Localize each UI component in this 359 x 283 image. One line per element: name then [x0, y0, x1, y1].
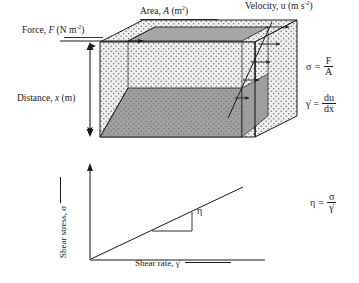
- distance-label: Distance, x (m): [17, 94, 75, 104]
- equation-shear-rate: γ̇ = du dx: [306, 93, 336, 114]
- plot-ylabel: Shear stress, σ: [58, 206, 68, 258]
- shear-box-diagram: [0, 0, 359, 283]
- equation-shear-stress: σ = F A: [306, 56, 334, 77]
- equation-viscosity: η = σ γ̇: [310, 192, 336, 213]
- force-label: Force, F (N m-2): [22, 26, 84, 36]
- plot-ylabel-arrow: [60, 177, 61, 203]
- distance-arrow: [87, 42, 94, 137]
- velocity-label: Velocity, u (m s-2): [245, 2, 313, 12]
- plot-xlabel: Shear rate, γ̇: [135, 258, 231, 268]
- figure-canvas: Area, A (m2) Velocity, u (m s-2) Force, …: [0, 0, 359, 283]
- slope-triangle: [152, 212, 192, 231]
- shear-plot: [87, 163, 265, 260]
- area-label: Area, A (m2): [140, 7, 188, 17]
- plot-xlabel-arrow: [185, 262, 231, 263]
- slope-label: η: [197, 205, 202, 216]
- plot-series-line: [91, 187, 243, 259]
